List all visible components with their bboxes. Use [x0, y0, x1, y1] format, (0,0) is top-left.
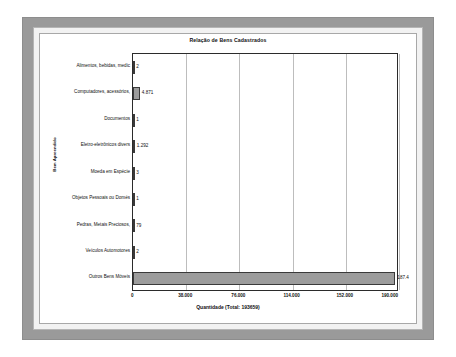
- grid-line: [399, 54, 400, 290]
- bar-value-label: 79: [136, 224, 141, 229]
- grid-line: [293, 54, 294, 290]
- category-label: Veículos Automotores: [86, 249, 130, 254]
- bar: [133, 140, 135, 153]
- category-label: Moeda em Espécie: [91, 170, 130, 175]
- grid-line: [239, 54, 240, 290]
- grid-line: [346, 54, 347, 290]
- x-tick-label: 38.000: [178, 294, 192, 299]
- bar-value-label: 1: [136, 118, 139, 123]
- bar: [133, 246, 135, 259]
- x-tick-label: 152.000: [336, 294, 353, 299]
- bar: [133, 61, 135, 74]
- bar-value-label: 1.292: [137, 144, 149, 149]
- screenshot-root: Relação de Bens Cadastrados Bem Apreendi…: [0, 0, 456, 357]
- category-label: Pedras, Metais Preciosos,: [77, 223, 130, 228]
- x-tick-label: 190.000: [381, 294, 398, 299]
- bar: [133, 272, 395, 285]
- chart-title: Relação de Bens Cadastrados: [40, 37, 416, 43]
- bar: [133, 87, 140, 100]
- bar: [133, 219, 135, 232]
- bar: [133, 114, 135, 127]
- bar-value-label: 3: [136, 171, 139, 176]
- bar-value-label: 2: [136, 65, 139, 70]
- category-label: Objetos Pessoais ou Domés: [72, 196, 130, 201]
- bar-value-label: 4.871: [142, 91, 154, 96]
- x-axis-title: Quantidade (Total: 193659): [40, 304, 416, 310]
- plot-area: 24.87111.29231792187.4: [132, 53, 398, 291]
- grid-line: [186, 54, 187, 290]
- category-label: Alimentos, bebidas, medic: [76, 64, 130, 69]
- bar: [133, 167, 135, 180]
- x-tick-label: 76.000: [231, 294, 245, 299]
- y-axis-labels: Alimentos, bebidas, medicComputadores, a…: [40, 53, 130, 291]
- category-label: Outros Bens Móveis: [89, 275, 130, 280]
- category-label: Documentos: [104, 117, 130, 122]
- bar-chart: Relação de Bens Cadastrados Bem Apreendi…: [40, 34, 416, 323]
- report-window-inner-frame: Relação de Bens Cadastrados Bem Apreendi…: [33, 27, 423, 330]
- bar-value-label: 1: [136, 197, 139, 202]
- x-tick-label: 114.000: [283, 294, 299, 299]
- category-label: Computadores, acessórios,: [74, 90, 130, 95]
- report-canvas: Relação de Bens Cadastrados Bem Apreendi…: [39, 33, 417, 324]
- category-label: Eletro-eletrônicos divers: [81, 143, 130, 148]
- report-window-frame: Relação de Bens Cadastrados Bem Apreendi…: [22, 17, 434, 340]
- bar-value-label: 2: [136, 250, 139, 255]
- bar: [133, 193, 135, 206]
- bar-value-label: 187.4: [397, 276, 409, 281]
- x-tick-label: 0: [131, 294, 134, 299]
